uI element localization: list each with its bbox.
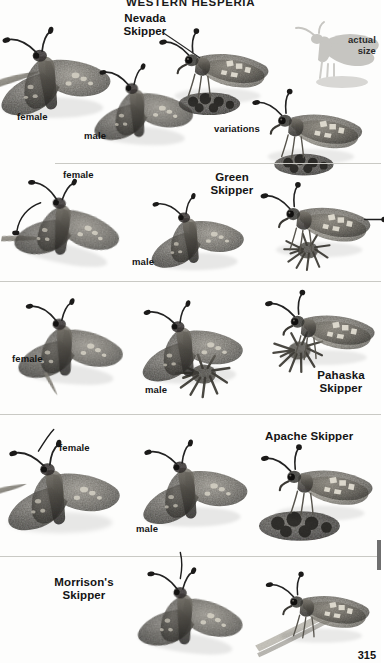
species-label-green-skipper: Green Skipper — [193, 171, 271, 197]
perch-stem — [0, 484, 27, 497]
sex-label-pahaska-female: female — [12, 354, 43, 365]
running-head: WESTERN HESPERIA — [0, 0, 381, 8]
page-number: 315 — [358, 649, 376, 661]
row-divider-1 — [55, 163, 381, 164]
sex-label-apache-female: female — [59, 443, 90, 454]
species-label-apache-skipper: Apache Skipper — [265, 430, 381, 443]
specimen-apache-ventral — [246, 440, 382, 558]
sex-label-nevada-male: male — [84, 131, 106, 142]
species-label-pahaska-skipper: Pahaska Skipper — [303, 369, 379, 395]
specimen-green-nectaring — [252, 176, 382, 276]
sex-label-apache-male: male — [136, 524, 158, 535]
species-label-morrisons-skipper: Morrison's Skipper — [36, 576, 132, 602]
actual-size-silhouette — [296, 22, 382, 94]
sex-label-green-male: male — [132, 257, 154, 268]
note-label-variations: variations — [214, 124, 260, 135]
row-divider-3 — [0, 414, 381, 415]
specimen-pahaska-female — [6, 292, 134, 392]
sex-label-green-female: female — [63, 170, 94, 181]
edge-thumb-mark — [377, 540, 381, 570]
actual-size-label: actual size — [318, 35, 376, 57]
specimen-nevada-variation-2 — [248, 84, 374, 180]
specimen-morrisons-dorsal — [124, 558, 254, 663]
row-divider-2 — [0, 281, 381, 282]
sex-label-pahaska-male: male — [145, 385, 167, 396]
specimen-apache-male — [124, 428, 260, 538]
row-divider-4 — [0, 556, 381, 557]
specimen-green-female — [4, 168, 128, 272]
specimen-green-male — [140, 186, 258, 278]
sex-label-nevada-female: female — [17, 112, 48, 123]
leader-line-nevada — [160, 30, 204, 66]
